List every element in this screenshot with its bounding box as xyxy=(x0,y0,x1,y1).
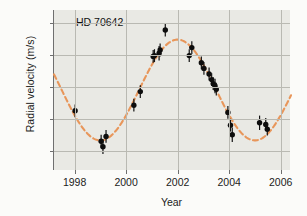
data-point xyxy=(199,60,204,65)
x-tick-label: 2006 xyxy=(258,176,304,188)
data-point xyxy=(265,127,270,132)
y-tick-mark xyxy=(50,55,54,56)
data-point xyxy=(206,71,211,76)
radial-velocity-figure: Radial velocity (m/s) Year HD 70642 4020… xyxy=(0,0,307,216)
data-points xyxy=(54,10,291,170)
gridline-vertical xyxy=(126,10,127,170)
data-point xyxy=(103,134,108,139)
data-point xyxy=(100,144,105,149)
x-axis-label: Year xyxy=(53,196,290,208)
data-point xyxy=(157,47,162,52)
data-point xyxy=(131,103,136,108)
gridline-horizontal xyxy=(54,87,290,88)
y-tick-mark xyxy=(50,87,54,88)
y-tick-mark xyxy=(50,119,54,120)
y-tick-mark xyxy=(50,23,54,24)
x-tick-label: 1998 xyxy=(52,176,98,188)
x-tick-mark xyxy=(229,170,230,174)
gridline-horizontal xyxy=(54,23,290,24)
data-point xyxy=(201,66,206,71)
data-point xyxy=(230,132,235,137)
plot-area: HD 70642 40200-20-4019982000200220042006 xyxy=(53,10,290,170)
data-point xyxy=(257,120,262,125)
gridline-vertical xyxy=(75,10,76,170)
x-tick-mark xyxy=(75,170,76,174)
gridline-vertical xyxy=(281,10,282,170)
gridline-horizontal xyxy=(54,119,290,120)
x-tick-label: 2002 xyxy=(155,176,201,188)
data-point xyxy=(163,27,168,32)
x-tick-mark xyxy=(281,170,282,174)
x-tick-mark xyxy=(178,170,179,174)
gridline-vertical xyxy=(229,10,230,170)
gridline-vertical xyxy=(178,10,179,170)
x-tick-label: 2004 xyxy=(206,176,252,188)
y-tick-mark xyxy=(50,151,54,152)
data-point xyxy=(138,89,143,94)
data-point xyxy=(189,45,194,50)
x-tick-mark xyxy=(126,170,127,174)
y-axis-label: Radial velocity (m/s) xyxy=(24,9,36,159)
gridline-horizontal xyxy=(54,55,290,56)
x-tick-label: 2000 xyxy=(103,176,149,188)
gridline-horizontal xyxy=(54,151,290,152)
